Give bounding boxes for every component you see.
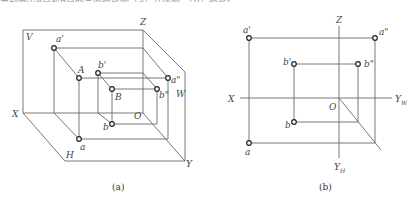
label-Z-b: Z (335, 15, 343, 25)
label-X-b: X (227, 94, 235, 104)
figure-b-orthographic: Z X O YW YH a' a" a b' b" b (b) (227, 15, 408, 192)
label-O-a: O (134, 111, 142, 121)
label-b-top-a: b (103, 122, 109, 132)
label-b-side-a: b" (159, 90, 169, 100)
point-B (110, 87, 115, 92)
point-b-top (110, 122, 115, 127)
label-Z-a: Z (139, 17, 147, 27)
label-YH: YH (334, 162, 346, 174)
label-a-front-a: a' (56, 34, 64, 44)
label-B: B (114, 92, 122, 102)
b-front-to-w-diag (143, 73, 157, 89)
label-YW: YW (395, 94, 408, 106)
label-Y-a: Y (186, 159, 193, 169)
label-A: A (77, 65, 85, 75)
a-front-to-w-diag (143, 48, 168, 78)
figure-a-isometric: V Z X Y H W O a' A a" a b' B b" b (a) (11, 17, 193, 192)
label-a-side-a: a" (171, 75, 181, 85)
y-axis-a (143, 113, 185, 161)
a-x-diag (54, 113, 79, 139)
label-O-b: O (329, 102, 337, 112)
label-a-top-b: a (245, 147, 250, 157)
projection-diagram: 分别画出A点和B点的三面投影图（a）立体图，（b）投影图 (0, 0, 413, 201)
point-a-front-b (247, 36, 252, 41)
point-b-front (96, 71, 101, 76)
label-W: W (176, 89, 186, 99)
label-a-top-a: a (80, 142, 85, 152)
label-b-top-b: b (285, 120, 291, 130)
point-a-top (77, 137, 82, 142)
a-front-to-A (54, 48, 79, 78)
b-front-to-B (98, 73, 112, 89)
label-b-front-a: b' (98, 60, 106, 70)
point-b-side-b (356, 62, 361, 67)
point-b-top-b (292, 120, 297, 125)
point-A (77, 76, 82, 81)
caption-a: (a) (112, 182, 124, 192)
point-a-side-b (373, 36, 378, 41)
point-b-front-b (292, 62, 297, 67)
label-X-a: X (11, 109, 19, 119)
w-plane-top-edge (143, 30, 185, 72)
label-a-side-b: a" (379, 27, 389, 37)
h-plane-left-edge (23, 113, 65, 161)
label-H: H (65, 150, 74, 160)
label-b-front-b: b' (283, 57, 291, 67)
diagram-canvas: V Z X Y H W O a' A a" a b' B b" b (a) (0, 0, 413, 201)
caption-b: (b) (319, 182, 332, 192)
label-V: V (26, 32, 34, 42)
point-a-front (52, 46, 57, 51)
point-a-top-b (247, 141, 252, 146)
label-b-side-b: b" (364, 59, 374, 69)
label-a-front-b: a' (243, 25, 251, 35)
point-a-side (166, 76, 171, 81)
